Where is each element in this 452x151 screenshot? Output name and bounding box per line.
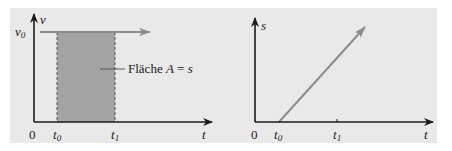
velocity-time-graph: v v0 0 t0 t1 t Fläche A = s [15,12,212,143]
origin-label: 0 [251,127,258,142]
v0-tick-label: v0 [15,24,26,40]
shaded-area [57,32,115,122]
y-axis-label: s [261,18,266,33]
t0-tick-label: t0 [53,127,62,143]
y-axis-label: v [40,12,46,27]
t1-tick-label: t1 [333,127,341,143]
t1-tick-label: t1 [111,127,119,143]
x-axis-label: t [202,127,206,142]
position-time-graph: s 0 t0 t1 t [251,18,433,143]
t0-tick-label: t0 [274,127,283,143]
origin-label: 0 [29,127,36,142]
position-line [279,27,365,122]
x-axis-label: t [424,127,428,142]
area-label: Fläche A = s [128,61,193,76]
figure-canvas: v v0 0 t0 t1 t Fläche A = s s 0 t0 t1 t [0,0,452,151]
